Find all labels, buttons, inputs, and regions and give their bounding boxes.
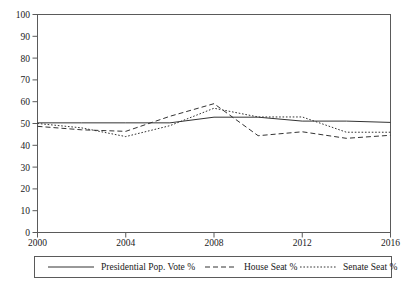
- y-tick-label: 30: [21, 163, 31, 173]
- legend-label-0: Presidential Pop. Vote %: [101, 262, 195, 272]
- y-axis-tick-marks: [33, 15, 38, 233]
- y-tick-label: 0: [25, 228, 30, 238]
- legend-label-1: House Seat %: [244, 262, 297, 272]
- legend-entries: Presidential Pop. Vote %House Seat %Sena…: [48, 262, 397, 272]
- plot-area-frame: [38, 15, 391, 233]
- x-tick-label: 2008: [205, 238, 224, 248]
- y-axis-tick-labels: 0102030405060708090100: [16, 10, 31, 238]
- x-tick-label: 2004: [116, 238, 135, 248]
- x-axis-tick-marks: [38, 233, 391, 238]
- chart-container: 0102030405060708090100 20002004200820122…: [0, 0, 409, 288]
- y-tick-label: 10: [21, 206, 31, 216]
- x-tick-label: 2000: [28, 238, 47, 248]
- y-tick-label: 80: [21, 54, 31, 64]
- y-tick-label: 70: [21, 75, 31, 85]
- line-chart: 0102030405060708090100 20002004200820122…: [0, 0, 409, 288]
- series-line-0: [38, 117, 391, 123]
- y-tick-label: 50: [21, 119, 31, 129]
- y-tick-label: 90: [21, 32, 31, 42]
- y-tick-label: 40: [21, 141, 31, 151]
- x-axis-tick-labels: 20002004200820122016: [28, 238, 400, 248]
- y-tick-label: 20: [21, 184, 31, 194]
- data-series-group: [38, 104, 391, 139]
- y-tick-label: 60: [21, 97, 31, 107]
- x-tick-label: 2012: [293, 238, 312, 248]
- y-tick-label: 100: [16, 10, 31, 20]
- legend-label-2: Senate Seat %: [343, 262, 397, 272]
- x-tick-label: 2016: [381, 238, 400, 248]
